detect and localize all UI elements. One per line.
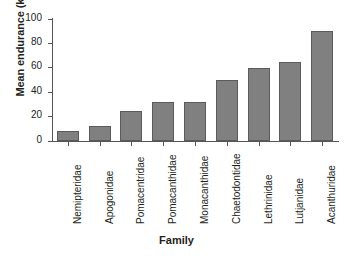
x-tick-mark: [195, 142, 196, 146]
x-category-label: Acanthuridae: [326, 165, 337, 224]
bar: [89, 126, 111, 141]
x-category-label: Pomacentridae: [135, 157, 146, 224]
x-category-label: Pomacanthidae: [167, 155, 178, 225]
x-category-label: Monacanthidae: [199, 156, 210, 224]
x-tick-mark: [100, 142, 101, 146]
bar: [120, 111, 142, 142]
bar: [216, 80, 238, 141]
x-tick-mark: [290, 142, 291, 146]
x-category-label: Lutjanidae: [294, 178, 305, 224]
x-tick-mark: [68, 142, 69, 146]
bar: [311, 31, 333, 141]
bar: [279, 62, 301, 141]
y-tick-label: 60: [2, 60, 42, 71]
x-axis-title: Family: [0, 234, 353, 246]
bar: [184, 102, 206, 141]
y-tick-label: 20: [2, 109, 42, 120]
y-tick-label: 40: [2, 85, 42, 96]
y-tick-label: 0: [2, 134, 42, 145]
bar: [152, 102, 174, 141]
y-tick-label: 80: [2, 36, 42, 47]
plot-area: [52, 19, 338, 141]
x-category-label: Apogonidae: [104, 171, 115, 224]
x-tick-mark: [227, 142, 228, 146]
x-tick-mark: [131, 142, 132, 146]
x-tick-mark: [322, 142, 323, 146]
x-category-label: Chaetodontidae: [231, 153, 242, 224]
x-category-label: Nemipteridae: [72, 165, 83, 224]
x-tick-mark: [163, 142, 164, 146]
x-tick-mark: [259, 142, 260, 146]
bar: [248, 68, 270, 141]
y-tick-label: 100: [2, 12, 42, 23]
bar-chart-figure: Mean endurance (km) 020406080100 Nemipte…: [0, 0, 353, 261]
x-category-label: Lethrinidae: [263, 175, 274, 224]
bar: [57, 131, 79, 141]
